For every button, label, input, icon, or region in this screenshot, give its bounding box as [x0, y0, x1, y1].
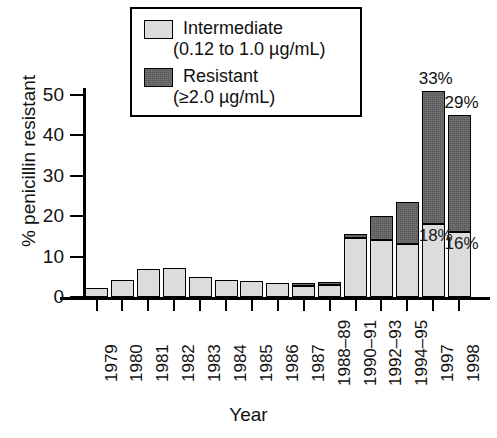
x-tick-label: 1983	[206, 344, 223, 382]
legend-text-intermediate: Intermediate (0.12 to 1.0 µg/mL)	[173, 18, 325, 60]
bar-1997	[422, 91, 445, 297]
x-tick	[303, 300, 305, 311]
x-tick	[406, 300, 408, 311]
x-axis-title: Year	[0, 404, 497, 426]
y-tick-label: 50	[30, 85, 64, 104]
bar-segment-intermediate	[137, 269, 160, 297]
y-tick	[70, 256, 83, 258]
bar-segment-resistant	[344, 234, 367, 238]
bar-segment-intermediate	[318, 285, 341, 297]
y-tick-label: 20	[30, 206, 64, 225]
x-tick	[380, 300, 382, 311]
y-tick-label: 10	[30, 247, 64, 266]
x-tick	[121, 300, 123, 311]
legend-range-intermediate: (0.12 to 1.0 µg/mL)	[173, 39, 325, 59]
x-tick-label: 1998	[465, 344, 482, 382]
bar-1988-89	[318, 283, 341, 297]
x-tick-label: 1990–91	[362, 320, 379, 386]
x-tick-label: 1988–89	[336, 320, 353, 386]
x-tick	[199, 300, 201, 311]
bar-1980	[111, 280, 134, 297]
y-axis-title: % penicillin resistant	[18, 46, 40, 276]
bar-segment-intermediate	[344, 238, 367, 297]
y-tick	[70, 94, 83, 96]
x-tick	[225, 300, 227, 311]
annotation-29: 29%	[445, 94, 479, 111]
bar-1986	[266, 283, 289, 297]
annotation-33: 33%	[419, 70, 453, 87]
x-tick-label: 1986	[284, 344, 301, 382]
x-tick	[147, 300, 149, 311]
bar-1983	[189, 277, 212, 297]
x-tick	[173, 300, 175, 311]
y-tick-label: 30	[30, 166, 64, 185]
bar-1985	[240, 281, 263, 297]
bar-1984	[215, 280, 238, 297]
bar-segment-resistant	[292, 283, 315, 286]
legend-entry-resistant: Resistant (≥2.0 µg/mL)	[144, 66, 275, 108]
bar-segment-intermediate	[163, 268, 186, 297]
bar-segment-intermediate	[85, 288, 108, 297]
bar-segment-resistant	[396, 202, 419, 244]
x-tick	[251, 300, 253, 311]
x-tick-label: 1979	[103, 344, 120, 382]
legend-label-intermediate: Intermediate	[183, 18, 283, 38]
x-tick-label: 1982	[180, 344, 197, 382]
bar-1994-95	[396, 202, 419, 297]
x-tick-label: 1985	[258, 344, 275, 382]
bar-segment-intermediate	[370, 240, 393, 297]
y-tick	[70, 134, 83, 136]
x-tick-label: 1997	[439, 344, 456, 382]
bar-1982	[163, 268, 186, 297]
x-tick	[96, 300, 98, 311]
legend-entry-intermediate: Intermediate (0.12 to 1.0 µg/mL)	[144, 18, 325, 60]
bar-segment-resistant	[422, 91, 445, 224]
annotation-16: 16%	[445, 235, 479, 252]
penicillin-resistance-bar-chart: % penicillin resistant 01020304050 19791…	[0, 0, 497, 438]
bar-1987	[292, 284, 315, 297]
bar-segment-intermediate	[215, 280, 238, 297]
x-tick	[329, 300, 331, 311]
bar-1990-91	[344, 234, 367, 297]
bar-1981	[137, 269, 160, 297]
legend-swatch-intermediate-icon	[144, 20, 173, 39]
bar-1998	[448, 115, 471, 297]
x-tick	[355, 300, 357, 311]
plot-area	[85, 88, 480, 297]
legend-label-resistant: Resistant	[183, 66, 258, 86]
y-tick-label: 40	[30, 125, 64, 144]
x-tick-label: 1981	[154, 344, 171, 382]
x-tick-label: 1992–93	[387, 320, 404, 386]
x-tick	[432, 300, 434, 311]
x-tick-label: 1980	[128, 344, 145, 382]
x-tick	[277, 300, 279, 311]
bar-segment-resistant	[370, 216, 393, 240]
x-tick-label: 1984	[232, 344, 249, 382]
x-tick-label: 1987	[310, 344, 327, 382]
bar-segment-intermediate	[240, 281, 263, 297]
legend: Intermediate (0.12 to 1.0 µg/mL) Resista…	[130, 7, 362, 117]
x-axis-line	[60, 297, 490, 300]
y-tick	[70, 296, 83, 298]
bar-segment-intermediate	[292, 286, 315, 297]
legend-swatch-resistant-icon	[144, 68, 173, 87]
y-tick-label: 0	[30, 287, 64, 306]
bar-segment-intermediate	[111, 280, 134, 297]
bar-segment-intermediate	[189, 277, 212, 297]
y-tick	[70, 215, 83, 217]
bar-1979	[85, 288, 108, 297]
legend-range-resistant: (≥2.0 µg/mL)	[173, 87, 275, 107]
bar-segment-intermediate	[266, 283, 289, 297]
bar-segment-resistant	[448, 115, 471, 232]
x-tick	[458, 300, 460, 311]
bar-segment-intermediate	[396, 244, 419, 297]
legend-text-resistant: Resistant (≥2.0 µg/mL)	[173, 66, 275, 108]
bar-1992-93	[370, 216, 393, 297]
x-tick-label: 1994–95	[413, 320, 430, 386]
y-tick	[70, 175, 83, 177]
bar-segment-resistant	[318, 282, 341, 285]
